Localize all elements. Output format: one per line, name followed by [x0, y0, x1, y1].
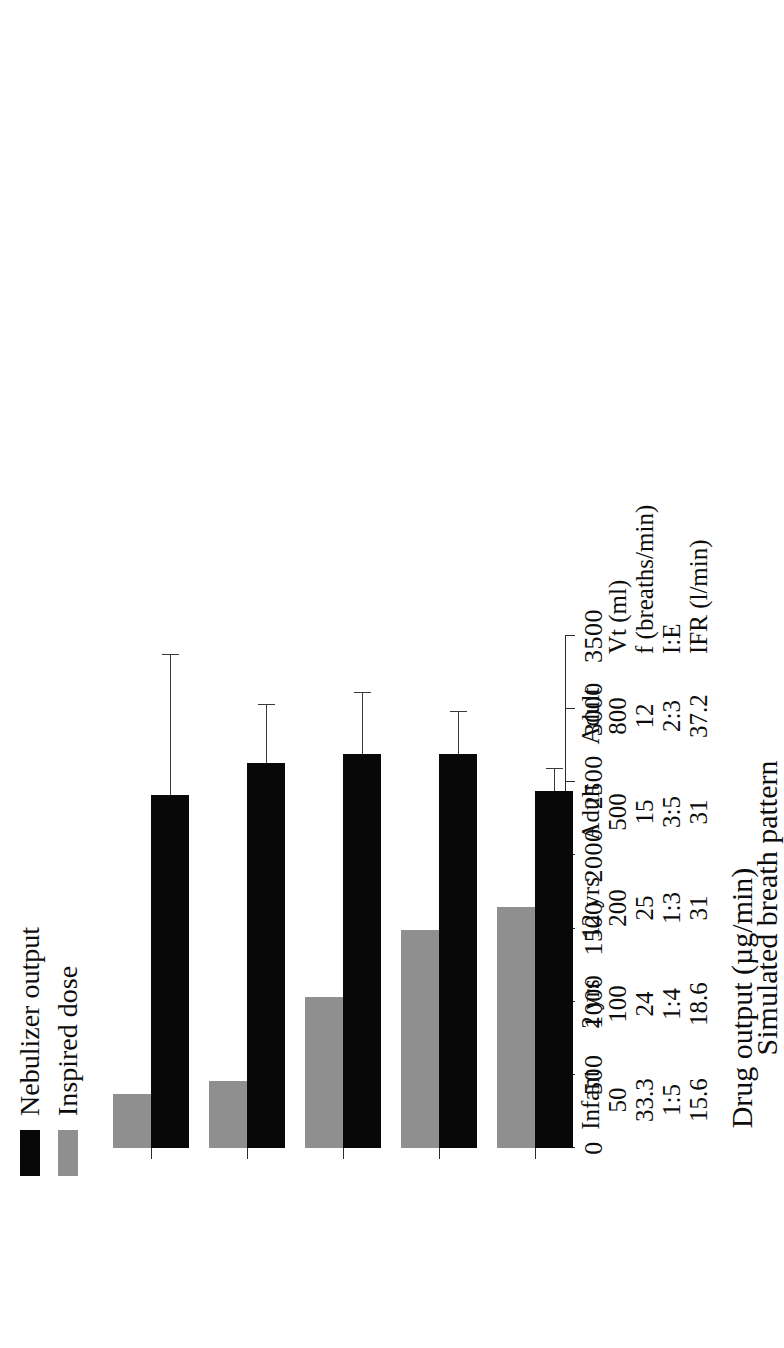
category-label-line: 15.6 — [685, 1052, 712, 1148]
bar-inspired-dose[interactable] — [113, 1094, 151, 1148]
error-bar — [170, 655, 171, 795]
error-bar — [266, 705, 267, 764]
parameter-key-line: I:E — [658, 623, 685, 654]
bar-group — [497, 628, 593, 1148]
bar-inspired-dose[interactable] — [497, 907, 535, 1148]
category-axis-title: Simulated breath pattern — [750, 761, 784, 1056]
category-label-line: 37.2 — [685, 668, 712, 764]
error-bar-cap — [162, 654, 179, 655]
bar-nebulizer-output[interactable] — [343, 755, 381, 1149]
category-label-line: 3:5 — [658, 764, 685, 860]
category-axis-tick — [343, 1148, 344, 1159]
legend-item-nebulizer-output: Nebulizer output — [14, 927, 46, 1176]
bar-nebulizer-output[interactable] — [151, 795, 189, 1148]
bar-inspired-dose[interactable] — [401, 930, 439, 1148]
plot-area: 0500100015002000250030003500 Infant5033.… — [55, 0, 565, 1148]
error-bar — [554, 769, 555, 791]
error-bar-cap — [258, 704, 275, 705]
category-label-line: 25 — [631, 860, 658, 956]
bar-group — [401, 628, 497, 1148]
error-bar-cap — [450, 711, 467, 712]
bar-nebulizer-output[interactable] — [535, 791, 573, 1148]
category-axis-tick — [535, 1148, 536, 1159]
category-label-line: 24 — [631, 956, 658, 1052]
bar-group — [113, 628, 209, 1148]
category-axis-tick — [151, 1148, 152, 1159]
category-label-line: 1:3 — [658, 860, 685, 956]
bar-group — [209, 628, 305, 1148]
parameter-key-line: Vt (ml) — [604, 580, 631, 654]
legend-label-nebulizer-output: Nebulizer output — [14, 927, 46, 1116]
legend-swatch-nebulizer-output — [20, 1130, 40, 1176]
category-label-line: 18.6 — [685, 956, 712, 1052]
category-label-line: 2:3 — [658, 668, 685, 764]
bar-group — [305, 628, 401, 1148]
error-bar-cap — [546, 768, 563, 769]
error-bar-cap — [354, 692, 371, 693]
bar-nebulizer-output[interactable] — [439, 755, 477, 1149]
category-label-line: 33.3 — [631, 1052, 658, 1148]
error-bar — [458, 712, 459, 754]
error-bar — [362, 693, 363, 754]
parameter-key-line: IFR (l/min) — [685, 539, 712, 654]
category-label-line: 1:4 — [658, 956, 685, 1052]
category-label-line: 31 — [685, 860, 712, 956]
category-label-line: 31 — [685, 764, 712, 860]
bar-inspired-dose[interactable] — [305, 997, 343, 1148]
parameter-key-line: f (breaths/min) — [631, 505, 658, 654]
category-label-line: 15 — [631, 764, 658, 860]
category-label-line: 12 — [631, 668, 658, 764]
category-axis-tick — [247, 1148, 248, 1159]
category-label-line: 1:5 — [658, 1052, 685, 1148]
category-axis-tick — [439, 1148, 440, 1159]
bar-inspired-dose[interactable] — [209, 1081, 247, 1148]
bar-nebulizer-output[interactable] — [247, 763, 285, 1148]
